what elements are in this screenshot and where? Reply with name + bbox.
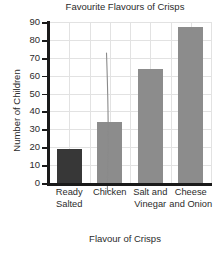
x-axis-line [47,183,212,186]
y-axis-tick-label: 10 [29,159,40,170]
gridline-vertical [211,22,212,183]
y-axis-tick-label: 50 [29,88,40,99]
bar-ready-salted [57,149,82,183]
y-axis-tick-mark [42,40,48,42]
y-axis-tick-label: 0 [35,177,40,188]
gridline-vertical [171,22,172,183]
y-axis-tick-mark [42,183,48,185]
y-axis-tick-label: 90 [29,16,40,27]
gridline-vertical [90,22,91,183]
x-axis-label: Flavour of Crisps [30,233,220,245]
y-axis-tick: 50 [42,94,48,96]
y-axis-tick-mark [42,111,48,113]
y-axis-tick: 90 [42,22,48,24]
y-axis-tick-mark [42,22,48,24]
y-axis-tick-label: 60 [29,70,40,81]
x-axis-tick-labels: Ready SaltedChickenSalt and VinegarChees… [49,187,211,233]
chart-title: Favourite Flavours of Crisps [30,1,220,13]
y-axis-tick: 0 [42,183,48,185]
x-axis-tick-label: Cheese and Onion [168,187,215,210]
y-axis-tick-label: 30 [29,123,40,134]
y-axis-tick: 30 [42,129,48,131]
y-axis-tick: 70 [42,58,48,60]
plot-area [49,22,211,183]
y-axis-tick-mark [42,147,48,149]
y-axis-tick-mark [42,129,48,131]
gridline-vertical [130,22,131,183]
y-axis-tick: 40 [42,111,48,113]
y-axis-line [47,21,50,184]
y-axis-tick-label: 70 [29,52,40,63]
y-axis-tick-mark [42,76,48,78]
y-axis-tick-mark [42,94,48,96]
y-axis-tick-mark [42,165,48,167]
y-axis-tick-label: 40 [29,105,40,116]
y-axis-tick: 60 [42,76,48,78]
bar-chicken [97,122,122,183]
y-axis-tick: 20 [42,147,48,149]
y-axis-tick-label: 80 [29,34,40,45]
bar-cheese-and-onion [178,27,203,183]
y-axis-tick: 10 [42,165,48,167]
bar-salt-and-vinegar [138,69,163,183]
y-axis-tick-mark [42,58,48,60]
y-axis-tick-label: 20 [29,141,40,152]
y-axis-tick: 80 [42,40,48,42]
y-axis-label: Number of Children [11,46,22,176]
bar-chart: Favourite Flavours of Crisps Number of C… [0,0,222,254]
